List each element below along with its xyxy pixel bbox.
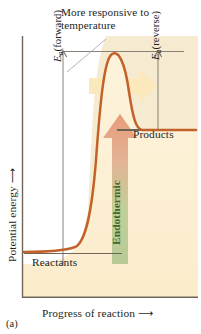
endothermic-label: Endothermic [110, 180, 123, 245]
y-axis-arrow-glyph: ⟶ [6, 168, 18, 183]
y-axis-label: Potential energy ⟶ [6, 168, 19, 262]
reactants-label: Reactants [32, 256, 77, 269]
ea-reverse-text: (reverse) [150, 11, 161, 50]
ea-forward-subscript: a [56, 51, 65, 55]
ea-reverse-label: Ea(reverse) [150, 11, 164, 60]
figure-graphics [0, 0, 201, 334]
x-axis-label: Progress of reaction ⟶ [42, 307, 153, 320]
ea-reverse-subscript: a [154, 49, 163, 53]
panel-letter: (a) [6, 318, 18, 330]
ea-reverse-symbol: E [150, 53, 161, 60]
y-axis-label-text: Potential energy [6, 186, 18, 262]
ea-forward-text: (forward) [52, 10, 63, 52]
ea-forward-symbol: E [52, 55, 63, 62]
x-axis-arrow-glyph: ⟶ [138, 307, 153, 319]
x-axis-label-text: Progress of reaction [42, 307, 135, 319]
reaction-energy-profile-figure: More responsive to temperature Ea(forwar… [0, 0, 201, 334]
ea-forward-label: Ea(forward) [52, 10, 66, 62]
products-label: Products [133, 128, 174, 141]
